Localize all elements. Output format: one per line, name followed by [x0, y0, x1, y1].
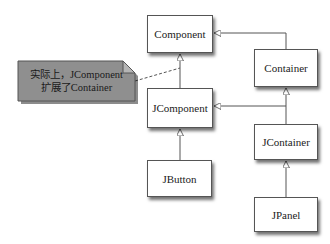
class-container[interactable]: Container — [254, 49, 318, 87]
note: 实际上，JComponent 扩展了Container — [18, 61, 135, 101]
class-component-label: Component — [154, 28, 205, 40]
note-text: 实际上，JComponent 扩展了Container — [18, 61, 135, 101]
class-jcontainer-label: JContainer — [262, 136, 310, 148]
inheritance-container-component — [214, 33, 286, 49]
note-line-2: 扩展了Container — [41, 81, 112, 94]
class-jcontainer[interactable]: JContainer — [254, 124, 318, 160]
note-link — [135, 68, 180, 81]
class-jbutton[interactable]: JButton — [147, 160, 212, 197]
class-component[interactable]: Component — [147, 15, 213, 53]
class-jpanel-label: JPanel — [272, 209, 301, 221]
class-jpanel[interactable]: JPanel — [254, 197, 318, 232]
class-jcomponent[interactable]: JComponent — [147, 88, 213, 128]
class-jbutton-label: JButton — [162, 173, 196, 185]
class-container-label: Container — [264, 62, 307, 74]
class-jcomponent-label: JComponent — [152, 102, 208, 114]
note-line-1: 实际上，JComponent — [30, 68, 123, 81]
